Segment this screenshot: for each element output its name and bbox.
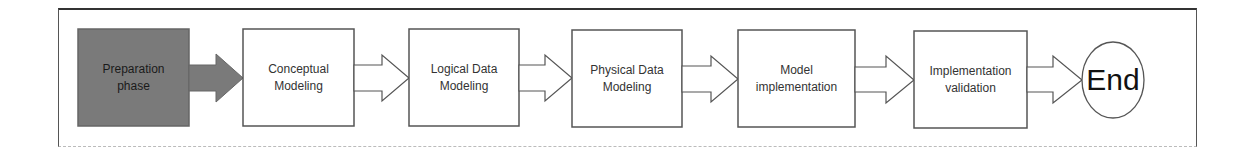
arrow-icon [1027,56,1082,103]
step-label: Implementation validation [914,31,1027,128]
step-label: Model implementation [738,30,855,127]
arrow-icon [519,55,572,101]
step-label: Preparation phase [78,29,189,126]
step-label: Physical Data Modeling [572,30,682,127]
arrow-icon [682,56,738,102]
arrow-icon [354,55,409,101]
step-label: Logical Data Modeling [409,29,519,126]
end-label: End [1082,42,1144,118]
arrow-icon [855,56,914,103]
arrow-icon [189,54,243,102]
step-label: Conceptual Modeling [243,29,354,126]
